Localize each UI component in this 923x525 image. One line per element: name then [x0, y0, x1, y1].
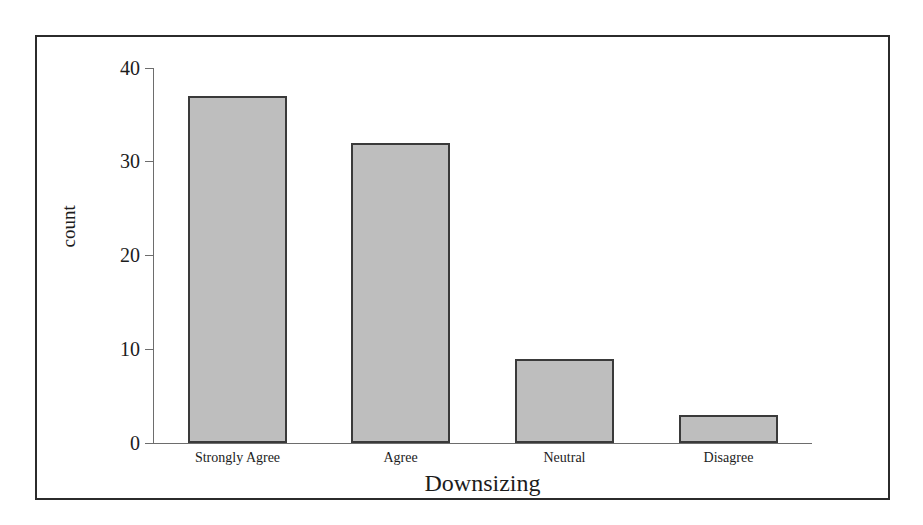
- x-tick-label-disagree: Disagree: [648, 450, 809, 466]
- x-tick-label-neutral: Neutral: [484, 450, 645, 466]
- y-tick-mark-10: [145, 349, 153, 350]
- y-tick-label-10: 10: [80, 339, 140, 359]
- y-tick-mark-30: [145, 161, 153, 162]
- y-tick-label-20: 20: [80, 245, 140, 265]
- bar-neutral: [515, 359, 614, 443]
- y-tick-label-30: 30: [80, 151, 140, 171]
- bar-disagree: [679, 415, 778, 443]
- y-axis-spine: [153, 68, 154, 443]
- y-axis-title: count: [59, 208, 78, 248]
- bar-agree: [351, 143, 450, 443]
- x-axis-spine: [153, 443, 812, 444]
- y-tick-label-0: 0: [80, 433, 140, 453]
- plot-area: 0 10 20 30 40 count Strongly Agree Agree…: [0, 0, 923, 525]
- y-tick-mark-20: [145, 255, 153, 256]
- x-axis-title: Downsizing: [153, 470, 812, 496]
- x-tick-label-agree: Agree: [320, 450, 481, 466]
- figure-container: 0 10 20 30 40 count Strongly Agree Agree…: [0, 0, 923, 525]
- x-tick-label-strongly-agree: Strongly Agree: [157, 450, 318, 466]
- y-tick-label-40: 40: [80, 58, 140, 78]
- y-tick-mark-40: [145, 68, 153, 69]
- y-tick-mark-0: [145, 443, 153, 444]
- bar-strongly-agree: [188, 96, 287, 443]
